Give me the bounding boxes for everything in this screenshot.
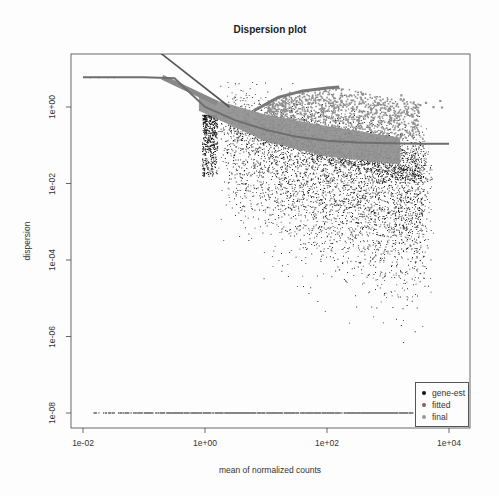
chart-legend: gene-est fitted final [415,382,469,427]
y-tick-label: 1e-04 [47,249,57,271]
dispersion-plot-figure: Dispersion plot dispersion mean of norma… [0,0,499,496]
legend-marker-icon [422,403,426,407]
y-tick-label: 1e-02 [47,173,57,195]
legend-item-fitted: fitted [422,399,468,411]
x-axis-label: mean of normalized counts [0,465,499,475]
legend-item-final: final [422,411,468,423]
legend-label: fitted [432,400,450,410]
legend-label: gene-est [432,388,465,398]
legend-marker-icon [422,391,426,395]
legend-item-gene-est: gene-est [422,387,468,399]
y-axis-label: dispersion [22,222,32,261]
legend-label: final [432,412,448,422]
x-tick-label: 1e+04 [437,438,461,448]
y-tick-label: 1e-08 [47,402,57,424]
x-tick-label: 1e-02 [72,438,94,448]
x-tick-label: 1e+00 [193,438,217,448]
y-tick-label: 1e+00 [47,95,57,119]
y-tick-label: 1e-06 [47,326,57,348]
legend-marker-icon [422,415,426,419]
x-tick-label: 1e+02 [315,438,339,448]
